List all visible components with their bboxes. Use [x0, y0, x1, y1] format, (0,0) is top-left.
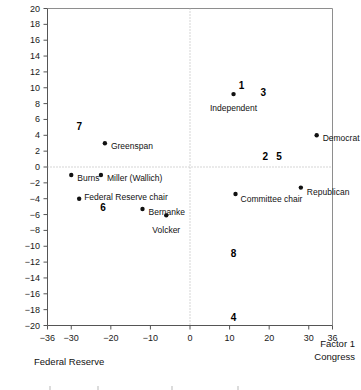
y-tick-label: 2 — [8, 147, 40, 156]
data-point-label: Independent — [210, 104, 257, 113]
scatter-plot-figure: 20181614121086420−2−4−6−8−10−12−14−16−18… — [0, 0, 361, 390]
cluster-number: 1 — [239, 81, 245, 91]
y-tick-label: 0 — [8, 163, 40, 172]
y-tick-label: 16 — [8, 36, 40, 45]
cluster-number: 7 — [76, 122, 82, 132]
data-point — [314, 133, 318, 137]
y-tick-label: −2 — [8, 178, 40, 187]
data-point-label: Volcker — [152, 226, 180, 235]
cluster-number: 6 — [100, 203, 106, 213]
cluster-number: 2 — [262, 152, 268, 162]
data-point — [231, 92, 235, 96]
cluster-number: 4 — [231, 313, 237, 323]
data-point — [233, 192, 237, 196]
data-point-label: Republican — [307, 188, 350, 197]
data-point — [299, 185, 303, 189]
x-axis-title: Factor 1 — [320, 338, 355, 349]
tick-marks-group — [44, 9, 333, 330]
data-point-label: Democrat — [323, 134, 360, 143]
x-axis-left-pole-label: Federal Reserve — [34, 356, 104, 367]
data-point — [140, 207, 144, 211]
x-tick-label: −36 — [40, 334, 55, 343]
data-point-label: Burns — [77, 174, 99, 183]
data-point-label: Committee chair — [241, 195, 303, 204]
y-tick-label: 12 — [8, 67, 40, 76]
data-point — [77, 197, 81, 201]
data-point-label: Greenspan — [111, 142, 153, 151]
cluster-number: 3 — [260, 88, 266, 98]
x-tick-label: 20 — [264, 334, 274, 343]
x-tick-label: 0 — [187, 334, 192, 343]
x-tick-label: 10 — [225, 334, 235, 343]
data-point — [69, 173, 73, 177]
data-point-label: Miller (Wallich) — [107, 174, 162, 183]
x-axis-right-pole-label: Congress — [314, 351, 355, 362]
cluster-number: 8 — [231, 249, 237, 259]
y-tick-label: 10 — [8, 83, 40, 92]
y-tick-label: −14 — [8, 273, 40, 282]
cluster-number: 5 — [276, 152, 282, 162]
y-tick-label: −20 — [8, 321, 40, 330]
y-tick-label: 6 — [8, 115, 40, 124]
bottom-tick-strip-group — [50, 386, 238, 390]
y-tick-label: 14 — [8, 52, 40, 61]
data-point — [103, 141, 107, 145]
y-tick-label: 18 — [8, 20, 40, 29]
y-tick-label: 20 — [8, 4, 40, 13]
data-point-label: Federal Reserve chair — [84, 193, 168, 202]
y-tick-label: −12 — [8, 258, 40, 267]
reference-lines-group — [48, 9, 333, 326]
x-tick-label: −20 — [103, 334, 118, 343]
y-tick-label: −18 — [8, 305, 40, 314]
y-tick-label: −16 — [8, 289, 40, 298]
x-tick-label: −10 — [143, 334, 158, 343]
y-tick-label: 4 — [8, 131, 40, 140]
x-tick-label: −30 — [64, 334, 79, 343]
y-tick-label: −8 — [8, 226, 40, 235]
y-tick-label: −4 — [8, 194, 40, 203]
y-tick-label: −10 — [8, 242, 40, 251]
data-point-label: Bernanke — [149, 208, 185, 217]
y-tick-label: −6 — [8, 210, 40, 219]
y-tick-label: 8 — [8, 99, 40, 108]
x-tick-label: 30 — [304, 334, 314, 343]
